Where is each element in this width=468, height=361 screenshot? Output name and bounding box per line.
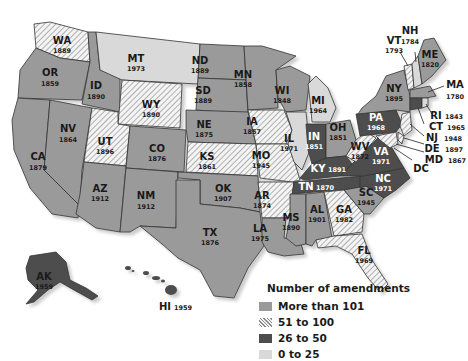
svg-text:AK: AK: [36, 271, 53, 282]
svg-text:1780: 1780: [446, 93, 465, 101]
svg-text:1964: 1964: [309, 107, 328, 115]
legend-item-0-to-25: 0 to 25: [275, 346, 410, 361]
svg-text:MN: MN: [234, 69, 252, 80]
svg-text:1861: 1861: [198, 163, 217, 171]
svg-text:IA: IA: [246, 116, 258, 127]
svg-text:1912: 1912: [137, 203, 155, 211]
svg-text:1968: 1968: [367, 124, 386, 132]
svg-text:MO: MO: [252, 150, 270, 161]
svg-text:1959: 1959: [35, 283, 54, 291]
svg-text:OH: OH: [330, 122, 347, 133]
svg-text:1851: 1851: [305, 143, 324, 151]
svg-text:NM: NM: [137, 190, 155, 201]
svg-text:RI: RI: [430, 110, 441, 121]
legend-item-more-than-101: More than 101: [275, 298, 410, 314]
svg-text:SC: SC: [359, 187, 374, 198]
svg-text:GA: GA: [336, 204, 352, 215]
svg-text:MT: MT: [128, 53, 145, 64]
svg-text:1897: 1897: [445, 146, 463, 154]
svg-text:VT: VT: [387, 35, 402, 46]
svg-text:1889: 1889: [53, 47, 72, 55]
svg-text:FL: FL: [357, 245, 371, 256]
svg-text:1982: 1982: [335, 216, 353, 224]
svg-text:OR: OR: [42, 67, 59, 78]
svg-text:1848: 1848: [273, 97, 292, 105]
svg-text:ID: ID: [90, 80, 102, 91]
svg-text:1895: 1895: [385, 95, 404, 103]
svg-text:OK: OK: [215, 183, 233, 194]
svg-text:NV: NV: [60, 123, 76, 134]
svg-text:CT: CT: [429, 121, 443, 132]
svg-text:KS: KS: [200, 151, 215, 162]
svg-text:NC: NC: [375, 173, 391, 184]
svg-text:CO: CO: [149, 143, 165, 154]
svg-text:1973: 1973: [127, 65, 145, 73]
svg-text:PA: PA: [369, 112, 383, 123]
swatch-light-gray: [259, 350, 272, 359]
svg-text:WV: WV: [351, 141, 370, 152]
svg-text:1867: 1867: [448, 157, 466, 165]
svg-text:NJ: NJ: [426, 132, 438, 143]
svg-text:UT: UT: [98, 136, 113, 147]
svg-text:AZ: AZ: [93, 183, 108, 194]
svg-text:1901: 1901: [308, 216, 327, 224]
svg-text:NY: NY: [386, 83, 402, 94]
svg-text:1784: 1784: [401, 38, 420, 46]
svg-text:KY: KY: [311, 163, 327, 174]
legend-item-26-to-50: 26 to 50: [275, 330, 410, 346]
svg-text:1890: 1890: [142, 111, 161, 119]
svg-text:DE: DE: [424, 143, 439, 154]
svg-text:1876: 1876: [148, 155, 167, 163]
svg-text:1945: 1945: [252, 162, 271, 170]
svg-text:HI: HI: [159, 301, 171, 312]
svg-text:IN: IN: [308, 131, 320, 142]
svg-text:1971: 1971: [374, 185, 393, 193]
svg-text:ND: ND: [192, 55, 209, 66]
svg-text:1896: 1896: [96, 148, 115, 156]
svg-text:1859: 1859: [41, 80, 60, 88]
svg-text:VA: VA: [374, 146, 389, 157]
svg-text:1843: 1843: [445, 113, 463, 121]
svg-text:1889: 1889: [194, 97, 213, 105]
svg-text:1857: 1857: [243, 128, 261, 136]
svg-text:1971: 1971: [372, 158, 391, 166]
svg-text:1876: 1876: [201, 239, 220, 247]
svg-text:MS: MS: [282, 212, 299, 223]
svg-text:1912: 1912: [91, 195, 109, 203]
svg-text:CA: CA: [30, 151, 45, 162]
svg-text:1820: 1820: [421, 61, 440, 69]
state-hi: [125, 266, 177, 295]
svg-text:1889: 1889: [191, 67, 210, 75]
svg-text:1870: 1870: [316, 184, 335, 192]
svg-text:1965: 1965: [447, 124, 466, 132]
svg-text:1872: 1872: [351, 153, 369, 161]
state-ny: [358, 70, 410, 114]
svg-text:1864: 1864: [59, 136, 78, 144]
svg-text:1975: 1975: [251, 235, 270, 243]
svg-text:LA: LA: [253, 223, 267, 234]
svg-text:TX: TX: [203, 227, 218, 238]
svg-text:1890: 1890: [282, 224, 301, 232]
state-ct: [410, 98, 422, 110]
svg-text:SD: SD: [195, 85, 211, 96]
svg-text:1959: 1959: [174, 304, 193, 312]
svg-text:1971: 1971: [280, 145, 299, 153]
svg-text:DC: DC: [413, 163, 429, 174]
svg-text:AL: AL: [310, 204, 325, 215]
svg-text:NH: NH: [402, 25, 419, 36]
svg-text:MI: MI: [311, 95, 325, 106]
svg-text:1858: 1858: [234, 81, 253, 89]
svg-text:TN: TN: [298, 181, 313, 192]
state-ks: [186, 142, 258, 176]
svg-text:NE: NE: [196, 119, 211, 130]
swatch-dark-gray: [259, 334, 272, 343]
swatch-hatched: [259, 318, 272, 327]
svg-text:MA: MA: [446, 79, 464, 90]
svg-text:1879: 1879: [29, 164, 48, 172]
svg-text:1875: 1875: [195, 131, 214, 139]
svg-text:1945: 1945: [357, 199, 376, 207]
svg-text:1948: 1948: [444, 135, 463, 143]
legend-title: Number of amendments: [267, 282, 410, 294]
svg-text:IL: IL: [284, 133, 295, 144]
legend-item-51-to-100: 51 to 100: [275, 314, 410, 330]
